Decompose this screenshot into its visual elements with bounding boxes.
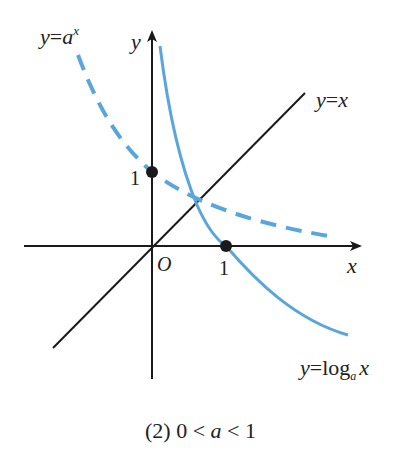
function-graph: y x O 1 1 y=ax y=x y=logax (2) 0 < a < 1 (0, 0, 420, 450)
identity-line (53, 93, 305, 348)
point-0-1 (146, 166, 158, 178)
point-1-0 (220, 240, 232, 252)
y-axis-label: y (129, 29, 141, 54)
x-tick-1: 1 (219, 257, 229, 279)
y-tick-1: 1 (130, 167, 140, 189)
exponential-label: y=ax (38, 23, 79, 49)
origin-label: O (157, 253, 171, 275)
identity-label: y=x (314, 87, 348, 112)
x-axis-label: x (346, 253, 357, 278)
exponential-curve (78, 55, 335, 237)
logarithm-label: y=logax (298, 355, 369, 383)
figure-caption: (2) 0 < a < 1 (145, 418, 256, 443)
